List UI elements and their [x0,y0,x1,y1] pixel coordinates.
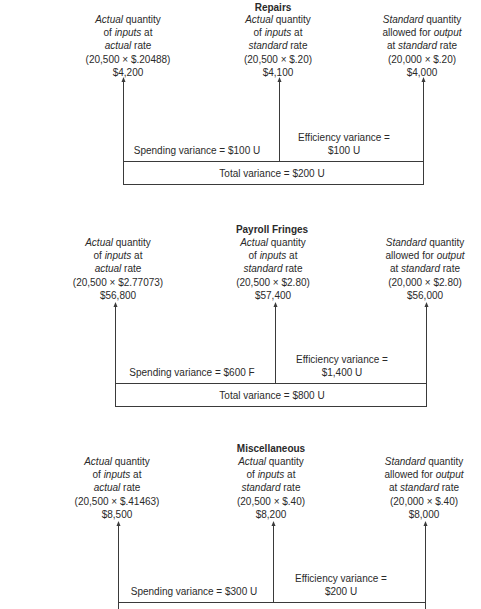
column-text-line: standard rate [237,481,305,494]
text: rate [280,482,300,493]
column-text-line: Standard quantity [385,455,464,468]
efficiency-variance-label: Efficiency variance = $200 U [295,572,387,598]
spending-variance-label: Spending variance = $300 U [131,585,257,598]
middle-vertical-line [273,524,274,603]
column-text-line: actual rate [75,481,160,494]
emphasis-text: inputs [104,469,131,480]
text: quantity [266,456,304,467]
text: $8,200 [256,509,287,520]
emphasis-text: actual [94,482,121,493]
diagram-title: Miscellaneous [237,442,305,455]
emphasis-text: output [436,469,464,480]
emphasis-text: inputs [258,469,285,480]
column-text-line: (20,500 × $.40) [237,495,305,508]
column-text-line: $8,200 [237,508,305,521]
standard-at-standard-column: Standard quantityallowed for outputat st… [385,455,464,521]
column-text-line: allowed for output [385,468,464,481]
text: allowed for [385,469,436,480]
text: rate [120,482,140,493]
column-text-line: Actual quantity [237,455,305,468]
text: rate [439,482,459,493]
right-vertical-line [425,524,426,609]
efficiency-variance-title: Efficiency variance = [295,572,387,585]
column-text-line: $8,000 [385,508,464,521]
emphasis-text: Standard [385,456,426,467]
efficiency-variance-value: $200 U [295,585,387,598]
column-text-line: Actual quantity [75,455,160,468]
text: quantity [425,456,463,467]
emphasis-text: standard [400,482,439,493]
emphasis-text: Actual [238,456,266,467]
text: $8,500 [102,509,133,520]
text: quantity [112,456,150,467]
column-text-line: (20,000 × $.40) [385,495,464,508]
text: at [284,469,295,480]
column-text-line: at standard rate [385,481,464,494]
emphasis-text: Actual [84,456,112,467]
column-text-line: (20,500 × $.41463) [75,495,160,508]
column-text-line: $8,500 [75,508,160,521]
actual-at-actual-column: Actual quantityof inputs atactual rate(2… [75,455,160,521]
text: (20,500 × $.41463) [75,496,160,507]
text: of [93,469,104,480]
emphasis-text: standard [242,482,281,493]
column-text-line: of inputs at [237,468,305,481]
variance-divider-line [118,602,426,603]
text: (20,500 × $.40) [237,496,305,507]
text: at [389,482,400,493]
text: (20,000 × $.40) [390,496,458,507]
column-text-line: of inputs at [75,468,160,481]
actual-at-standard-column: Actual quantityof inputs atstandard rate… [237,455,305,521]
text: at [130,469,141,480]
text: $8,000 [409,509,440,520]
text: of [247,469,258,480]
left-vertical-line [118,524,119,609]
